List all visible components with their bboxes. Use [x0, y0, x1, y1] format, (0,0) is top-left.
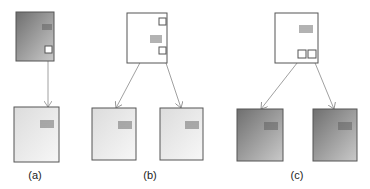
node-child-right: [160, 108, 203, 160]
port-square-icon: [159, 18, 166, 25]
port-square-icon: [298, 50, 306, 58]
node-child: [14, 107, 59, 162]
arrow-edge: [313, 58, 334, 109]
hierarchy-diagram: [0, 0, 370, 189]
panel-caption-a: (a): [28, 169, 41, 181]
panel-caption-b: (b): [143, 169, 156, 181]
port-square-icon: [308, 50, 316, 58]
port-square-icon: [159, 47, 166, 54]
panel-a: [14, 12, 59, 162]
node-parent: [275, 13, 318, 63]
panel-c: [237, 13, 357, 161]
node-child-left: [92, 108, 136, 160]
panel-b: [92, 13, 203, 160]
node-parent: [127, 13, 167, 63]
node-child-left: [237, 109, 283, 161]
node-parent: [16, 12, 54, 61]
panel-caption-c: (c): [291, 169, 304, 181]
arrow-edge: [261, 58, 301, 109]
port-square-icon: [45, 46, 52, 53]
node-child-right: [313, 109, 357, 161]
